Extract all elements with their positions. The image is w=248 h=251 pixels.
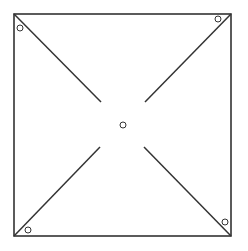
- corner-hole-icon: [17, 25, 23, 31]
- cut-line: [14, 14, 101, 102]
- corner-hole-icon: [25, 227, 31, 233]
- cut-line: [145, 14, 231, 102]
- corner-hole-icon: [215, 16, 221, 22]
- cut-line: [144, 147, 231, 236]
- cut-line: [14, 147, 100, 236]
- cut-lines: [14, 14, 231, 236]
- center-hole-icon: [120, 122, 126, 128]
- corner-hole-icon: [222, 219, 228, 225]
- pinwheel-diagram: [0, 0, 248, 251]
